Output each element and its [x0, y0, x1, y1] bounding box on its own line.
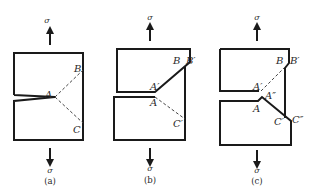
point-b-label: B [73, 63, 81, 74]
panel-b: σ A′ A B B′ C′ σ (b) [114, 13, 196, 185]
crack-path-ab [55, 70, 83, 97]
sigma-top-label: σ [44, 16, 50, 25]
sigma-bottom-label: σ [147, 164, 153, 173]
point-a-prime-label: A′ [149, 81, 160, 92]
point-b-label: B [275, 55, 283, 66]
point-c-label: C [73, 124, 81, 135]
point-c-double-prime-label: C″ [292, 114, 304, 125]
crack-path-ac [55, 97, 83, 123]
panel-a: σ A B C σ (a) [14, 16, 83, 186]
point-c-prime-label: C′ [173, 118, 184, 129]
point-b-prime-label: B′ [289, 55, 300, 66]
panel-c: σ A′ A″ A B B′ C′ C″ σ (c) [220, 13, 304, 186]
point-a-label: A [252, 103, 260, 114]
point-a-label: A [149, 97, 157, 108]
crack-path-a-prime-b [261, 65, 287, 91]
panel-c-caption: (c) [251, 176, 262, 186]
point-c-prime-label: C′ [274, 116, 285, 127]
sigma-top-label: σ [147, 13, 153, 22]
panel-b-caption: (b) [144, 175, 156, 185]
point-b-label: B [172, 55, 180, 66]
crack-path-ac-prime [155, 97, 185, 119]
sigma-top-label: σ [254, 13, 260, 22]
sigma-bottom-label: σ [254, 166, 260, 175]
point-a-double-prime-label: A″ [264, 90, 276, 101]
point-b-prime-label: B′ [185, 55, 196, 66]
panel-a-caption: (a) [44, 176, 56, 186]
point-a-label: A [44, 89, 52, 100]
fracture-diagram: σ A B C σ (a) σ A′ A B B′ C′ σ (b) σ [0, 0, 312, 196]
sigma-bottom-label: σ [47, 166, 53, 175]
point-a-prime-label: A′ [252, 81, 263, 92]
